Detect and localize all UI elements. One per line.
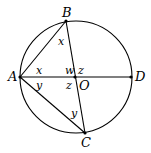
label-D: D	[134, 69, 146, 84]
angle-label-x-at-B: x	[58, 35, 65, 48]
label-A: A	[7, 69, 17, 84]
angle-label-y-at-A: y	[35, 79, 43, 92]
geometry-diagram: B A D C O x x y w z z y	[0, 0, 151, 153]
label-B: B	[61, 5, 72, 20]
point-A-dot	[18, 75, 21, 78]
angle-label-y-at-C: y	[70, 107, 78, 120]
angle-label-z-upper: z	[77, 64, 84, 77]
label-C: C	[81, 135, 91, 150]
angle-label-z-lower: z	[65, 79, 72, 92]
segment-AC	[20, 77, 85, 133]
label-O: O	[79, 78, 90, 93]
angle-label-x-at-A: x	[36, 64, 43, 77]
angle-label-w: w	[65, 64, 75, 77]
point-D-dot	[129, 75, 132, 78]
